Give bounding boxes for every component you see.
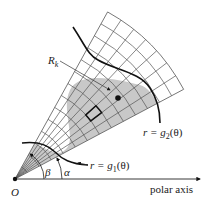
inner-curve-label: r = g1(θ)	[90, 159, 130, 174]
polar-axis-label: polar axis	[150, 183, 193, 195]
wedge-grid	[15, 12, 184, 179]
alpha-label: α	[64, 166, 70, 178]
sample-point	[115, 95, 121, 101]
origin-point	[13, 177, 17, 181]
outer-curve-label: r = g2(θ)	[143, 126, 183, 141]
polar-region-diagram: Rk r = g2(θ) r = g1(θ) β α O polar axis	[0, 0, 206, 216]
origin-label: O	[11, 186, 19, 198]
region-label: Rk	[47, 54, 59, 69]
angle-arc-alpha	[57, 158, 62, 179]
beta-label: β	[44, 166, 51, 178]
